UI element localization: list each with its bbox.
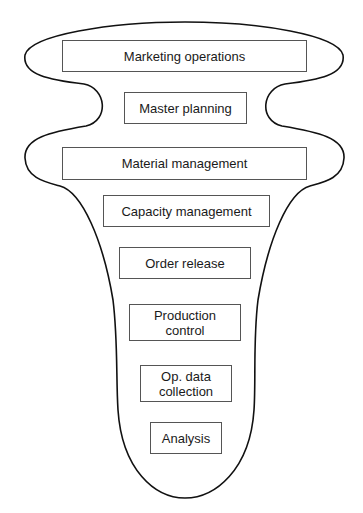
capacity-management-box: Capacity management [103,195,270,227]
marketing-operations-box: Marketing operations [62,40,307,72]
production-control-box: Production control [129,304,241,341]
master-planning-box: Master planning [124,92,247,124]
material-management-box: Material management [62,147,307,180]
analysis-box: Analysis [150,422,222,454]
order-release-box: Order release [119,247,251,279]
op-data-collection-box: Op. data collection [140,365,232,402]
